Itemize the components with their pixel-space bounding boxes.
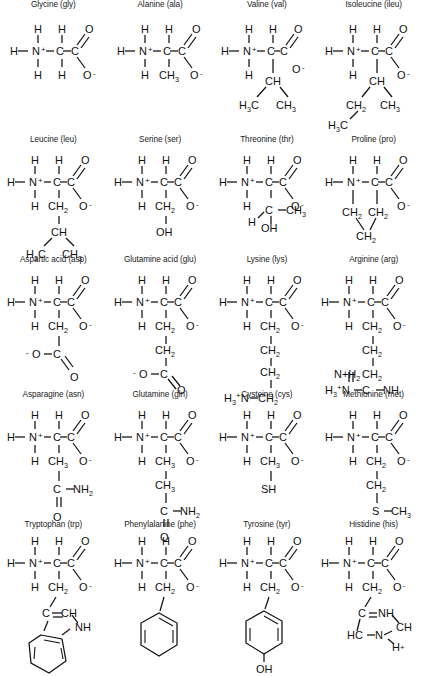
atom-c-alpha: C [163,45,171,57]
group-ch: CH [265,75,281,87]
group-h-plus: H+ [392,641,405,653]
atom-c-alpha: C [265,431,273,443]
atom-o-carbonyl: O [81,154,90,166]
amino-acid-structure-threonine: H N + H H C H C O O - C CH3 H OH [214,146,321,264]
atom-c-carboxyl: C [67,431,75,443]
atom-n: N [29,557,37,569]
charge-minus: - [200,69,203,78]
atom-h: H [55,535,63,547]
group-ch2: CH2 [260,320,280,335]
charge-minus: - [196,320,199,329]
atom-c-carboxyl: C [279,296,287,308]
charge-minus: - [407,455,410,464]
group-ch3: CH3 [159,69,179,84]
charge-minus: - [89,581,92,590]
atom-o-carboxylate: O [291,455,300,467]
amino-acid-cell-asparagine: Asparagine (asn) [0,390,107,520]
atom-c-carboxyl: C [381,557,389,569]
atom-o-carbonyl: O [192,23,201,35]
atom-o-carboxylate: O [291,581,300,593]
group-ch: CH [369,75,385,87]
atom-h: H [34,69,42,81]
group-ch2: CH2 [155,200,175,215]
charge-minus: - [26,348,29,357]
atom-c-alpha: C [265,176,273,188]
atom-h: H [31,535,39,547]
amino-acid-structure-methionine: H N + H H C H C O O - CH2 CH2 S CH3 [320,401,427,526]
atom-h: H [267,154,275,166]
amino-acid-title: Histidine (his) [320,520,427,530]
amino-acid-cell-glycine: Glycine (gly) H [0,0,107,135]
group-ch2: CH2 [366,479,386,494]
atom-c-indole: C [42,607,50,619]
atom-c-carboxyl: C [67,557,75,569]
amino-acid-structure-proline: H N + H C H C O O - CH2 CH2 CH2 [320,146,427,264]
atom-h: H [138,535,146,547]
atom-c-carboxyl: C [174,296,182,308]
atom-h: H [31,320,39,332]
atom-h: H [55,409,63,421]
atom-c-carboxyl: C [67,296,75,308]
charge-plus: + [250,431,255,440]
charge-minus: - [301,320,304,329]
atom-o-carboxylate: O [79,455,88,467]
atom-h: H [114,176,122,188]
group-ch-imidazole: CH [396,621,412,633]
atom-c-alpha: C [160,557,168,569]
group-ch2: CH2 [362,368,382,383]
group-ch3: CH3 [155,479,175,494]
atom-h: H [345,581,353,593]
atom-h: H [31,274,39,286]
charge-minus: - [93,69,96,78]
atom-c-alpha: C [267,45,275,57]
atom-o-carbonyl: O [395,274,404,286]
atom-o-carbonyl: O [81,409,90,421]
atom-n-imidazole: N [375,629,383,641]
atom-n: N [241,176,249,188]
atom-c-amide: C [160,505,168,517]
atom-h: H [248,216,256,228]
charge-plus: + [356,45,361,54]
amino-acid-cell-leucine: Leucine (leu) [0,135,107,255]
amino-acid-title: Asparagine (asn) [0,390,107,400]
atom-h: H [114,557,122,569]
charge-minus: - [403,320,406,329]
amino-acid-structure-serine: H N + H H C H C O O - CH2 OH [107,146,214,264]
amino-acid-title: Lysine (lys) [214,255,321,265]
atom-h: H [267,274,275,286]
atom-h: H [325,431,333,443]
amino-acid-title: Tryptophan (trp) [0,520,107,530]
atom-h: H [219,557,227,569]
atom-h: H [117,45,125,57]
atom-h: H [162,274,170,286]
atom-h: H [141,23,149,35]
charge-minus: - [301,455,304,464]
atom-h: H [369,535,377,547]
group-ch3: CH3 [260,455,280,470]
charge-plus: + [352,296,357,305]
atom-n: N [32,45,40,57]
charge-plus: + [38,176,43,185]
charge-plus: + [41,45,46,54]
atom-h: H [138,200,146,212]
amino-acid-title: Glycine (gly) [0,0,107,10]
charge-minus: - [302,63,305,72]
atom-h: H [349,455,357,467]
group-ch2: CH2 [368,206,388,221]
atom-h: H [138,154,146,166]
group-ch: CH [51,226,67,238]
atom-o-carboxylate: O [397,455,406,467]
atom-h: H [7,557,15,569]
group-nh2: NH2 [73,483,93,498]
group-ch2: CH2 [155,344,175,359]
atom-h: H [345,274,353,286]
atom-n: N [29,176,37,188]
atom-n: N [347,176,355,188]
atom-o-carbonyl: O [81,535,90,547]
atom-h: H [243,320,251,332]
atom-o-carbonyl: O [293,535,302,547]
charge-plus: + [250,296,255,305]
amino-acid-structure-leucine: H N + H H C H C O O - CH2 CH H3C CH3 [0,146,107,264]
atom-c-alpha: C [56,45,64,57]
